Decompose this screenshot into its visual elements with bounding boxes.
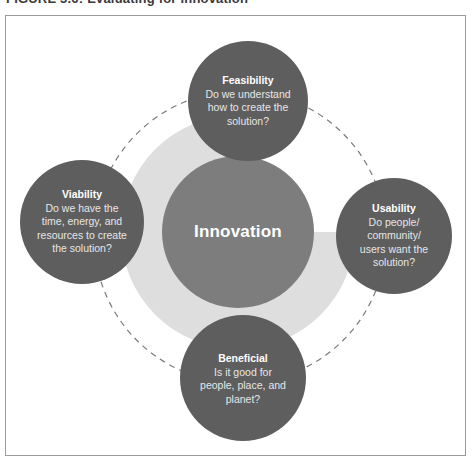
feasibility-desc-line3: solution? <box>227 115 269 129</box>
usability-title: Usability <box>372 202 416 216</box>
beneficial-title: Beneficial <box>218 352 268 366</box>
feasibility-title: Feasibility <box>222 74 273 88</box>
feasibility-desc-line2: how to create the <box>208 101 289 115</box>
feasibility-desc-line1: Do we understand <box>205 88 290 102</box>
usability-desc-line4: solution? <box>373 256 415 270</box>
center-label: Innovation <box>162 156 314 308</box>
viability-desc-line2: time, energy, and <box>42 215 122 229</box>
usability-desc-line3: users want the <box>360 243 428 257</box>
beneficial-desc-line1: Is it good for <box>214 366 272 380</box>
node-viability: Viability Do we have the time, energy, a… <box>20 176 144 268</box>
beneficial-desc-line2: people, place, and <box>200 379 286 393</box>
viability-desc-line1: Do we have the <box>46 202 119 216</box>
viability-desc-line4: the solution? <box>52 242 112 256</box>
node-feasibility: Feasibility Do we understand how to crea… <box>188 62 308 140</box>
usability-desc-line2: community/ <box>367 229 421 243</box>
viability-desc-line3: resources to create <box>37 229 127 243</box>
node-beneficial: Beneficial Is it good for people, place,… <box>181 340 305 418</box>
usability-desc-line1: Do people/ <box>369 216 420 230</box>
viability-title: Viability <box>62 188 102 202</box>
node-usability: Usability Do people/ community/ users wa… <box>338 190 450 282</box>
beneficial-desc-line3: planet? <box>226 393 260 407</box>
